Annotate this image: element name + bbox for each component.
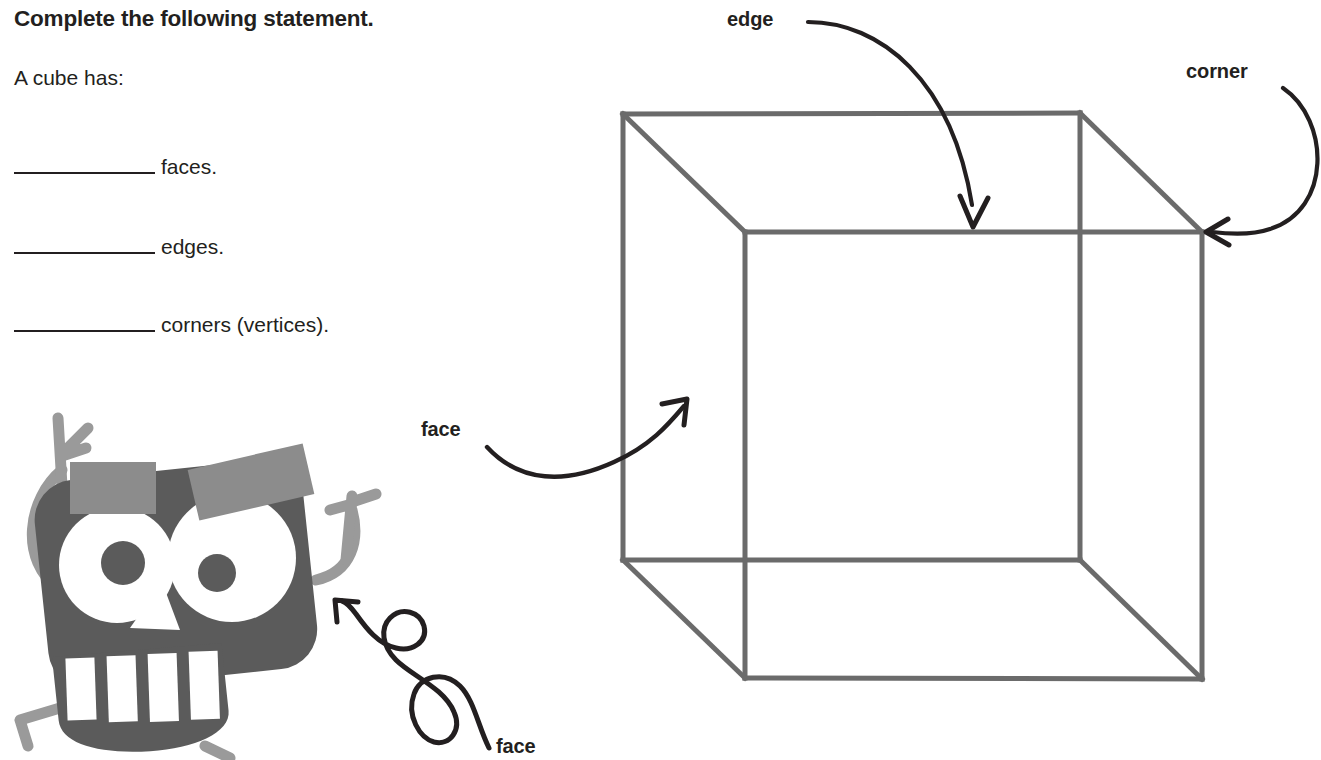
face-callout-arrow	[487, 399, 687, 477]
answer-row-edges: edges.	[14, 226, 224, 260]
answer-label-edges: edges.	[155, 235, 224, 259]
prompt-subtitle: A cube has:	[14, 66, 124, 90]
robot-tooth	[107, 655, 138, 722]
answer-row-corners: corners (vertices).	[14, 304, 329, 338]
robot-mascot	[0, 390, 400, 760]
robot-right-eye-white	[168, 494, 296, 622]
corner-callout-arrow	[1206, 88, 1317, 245]
robot-tooth	[189, 651, 220, 720]
cube-front-bottom-edge	[745, 678, 1202, 679]
cube-diagonal-top-right	[1080, 113, 1202, 232]
cube-diagonal-bottom-right	[1080, 560, 1202, 679]
cube-wireframe	[623, 113, 1202, 679]
cube-top-back-edge	[623, 113, 1080, 114]
callout-label-corner: corner	[1186, 60, 1248, 83]
answer-row-faces: faces.	[14, 146, 217, 180]
answer-blank-corners[interactable]	[14, 304, 155, 332]
page-title: Complete the following statement.	[14, 6, 374, 32]
answer-blank-faces[interactable]	[14, 146, 155, 174]
callout-label-face-robot: face	[496, 735, 536, 758]
cube-diagonal-top-left	[623, 114, 745, 232]
worksheet-text-block: Complete the following statement. A cube…	[0, 0, 600, 380]
edge-callout-arrow	[808, 22, 988, 227]
robot-right-leg	[205, 746, 230, 758]
answer-label-corners: corners (vertices).	[155, 313, 329, 337]
robot-left-leg	[20, 708, 60, 746]
robot-left-eyebrow	[70, 462, 156, 514]
answer-label-faces: faces.	[155, 155, 217, 179]
cube-diagonal-bottom-left	[623, 560, 745, 678]
callout-label-edge: edge	[727, 8, 773, 31]
robot-right-pupil	[198, 554, 236, 592]
robot-tooth	[148, 653, 179, 722]
robot-left-pupil	[101, 541, 145, 585]
answer-blank-edges[interactable]	[14, 226, 155, 254]
callout-label-face-front: face	[421, 418, 461, 441]
robot-tooth	[65, 658, 96, 721]
worksheet-page: Complete the following statement. A cube…	[0, 0, 1321, 760]
